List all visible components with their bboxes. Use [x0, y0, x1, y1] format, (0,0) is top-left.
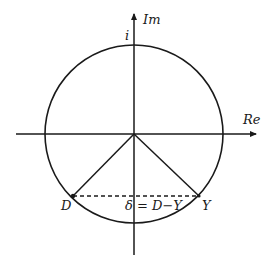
complex-plane-diagram: Im i Re D Y δ = D−Y — [0, 0, 271, 267]
radius-to-y — [134, 134, 199, 196]
point-y-label: Y — [202, 198, 212, 213]
chord-label: δ = D−Y — [125, 198, 183, 213]
imag-unit-label: i — [125, 28, 129, 43]
point-d — [71, 194, 75, 198]
point-y — [197, 194, 200, 197]
imag-axis-label: Im — [142, 12, 160, 27]
real-axis-label: Re — [242, 112, 261, 127]
point-d-label: D — [60, 198, 72, 213]
radius-to-d — [73, 134, 134, 196]
